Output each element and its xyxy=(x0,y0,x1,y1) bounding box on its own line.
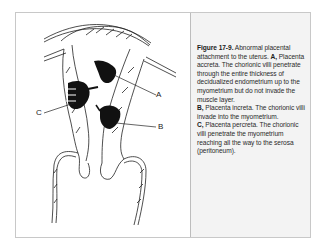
label-b: B xyxy=(158,122,163,131)
label-c: C xyxy=(36,108,42,117)
item-b-text: Placenta increta. The chorionic villi in… xyxy=(197,104,305,120)
figure-number: Figure 17-9. xyxy=(197,44,233,51)
item-a-text: Placenta accreta. The chorionic villi pe… xyxy=(197,53,304,103)
label-a: A xyxy=(156,90,161,99)
uterus-diagram-panel: A B C xyxy=(16,13,190,237)
figure-container: A B C Figure 17-9. Abnormal placental at… xyxy=(15,12,311,238)
figure-caption: Figure 17-9. Abnormal placental attachme… xyxy=(197,44,309,156)
item-c-text: Placenta percreta. The chorionic villi p… xyxy=(197,121,299,154)
caption-panel: Figure 17-9. Abnormal placental attachme… xyxy=(190,13,310,237)
uterus-diagram-illustration xyxy=(16,13,190,237)
